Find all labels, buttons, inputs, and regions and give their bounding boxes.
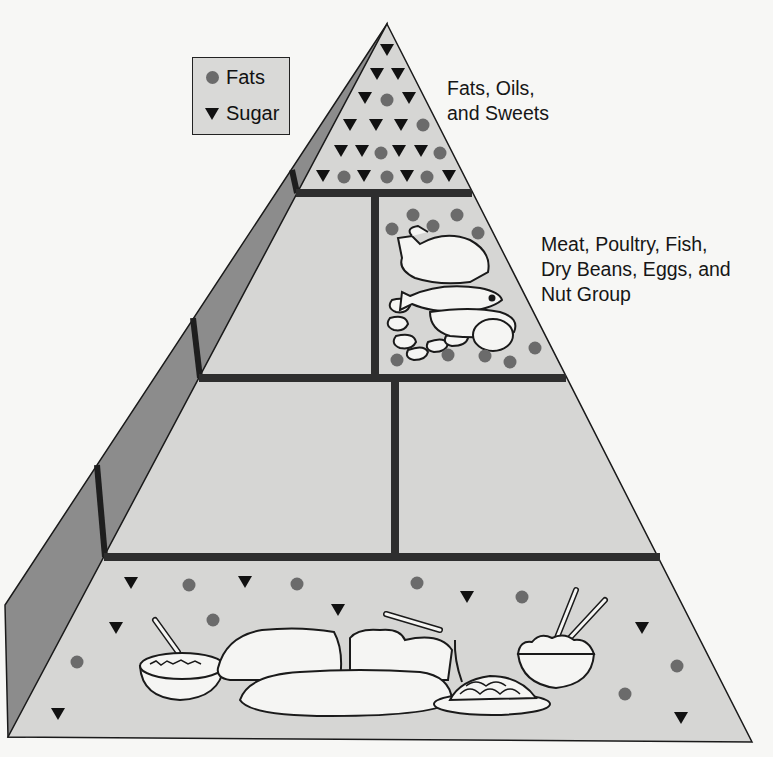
fat-dot-icon xyxy=(411,577,424,590)
fat-dot-icon xyxy=(504,356,517,369)
fat-dot-icon xyxy=(421,171,434,184)
legend: Fats Sugar xyxy=(192,57,290,135)
legend-label-sugar: Sugar xyxy=(226,102,279,125)
fat-dot-icon xyxy=(434,147,447,160)
fat-dot-icon xyxy=(381,94,394,107)
fat-dot-icon xyxy=(71,656,84,669)
fat-dot-icon xyxy=(516,591,529,604)
legend-item-sugar: Sugar xyxy=(203,102,279,125)
fat-dot-icon xyxy=(386,223,399,236)
fat-dot-icon xyxy=(671,660,684,673)
fat-dot-icon xyxy=(407,209,420,222)
tier-label-meat-group: Meat, Poultry, Fish, Dry Beans, Eggs, an… xyxy=(541,232,731,307)
fat-dot-icon xyxy=(472,227,485,240)
legend-item-fats: Fats xyxy=(203,66,265,89)
fat-dot-icon xyxy=(417,119,430,132)
fat-dot-icon xyxy=(291,578,304,591)
fat-dot-icon xyxy=(619,688,632,701)
sugar-triangle-icon xyxy=(203,102,221,125)
egg-icon xyxy=(473,319,513,351)
baguette-icon xyxy=(240,670,452,716)
fat-dot-icon xyxy=(183,579,196,592)
fat-dot-icon xyxy=(391,354,404,367)
food-pyramid-diagram xyxy=(0,0,773,757)
fat-dot-icon xyxy=(207,614,220,627)
fat-dot-icon xyxy=(203,66,221,89)
fat-dot-icon xyxy=(529,342,542,355)
fat-dot-icon xyxy=(338,171,351,184)
fat-dot-icon xyxy=(375,147,388,160)
tier-label-fats-oils-sweets: Fats, Oils, and Sweets xyxy=(447,76,549,126)
fat-dot-icon xyxy=(479,350,492,363)
fat-dot-icon xyxy=(451,209,464,222)
fat-dot-icon xyxy=(442,349,455,362)
fat-dot-icon xyxy=(381,171,394,184)
legend-label-fats: Fats xyxy=(226,66,265,89)
fat-dot-icon xyxy=(427,220,440,233)
